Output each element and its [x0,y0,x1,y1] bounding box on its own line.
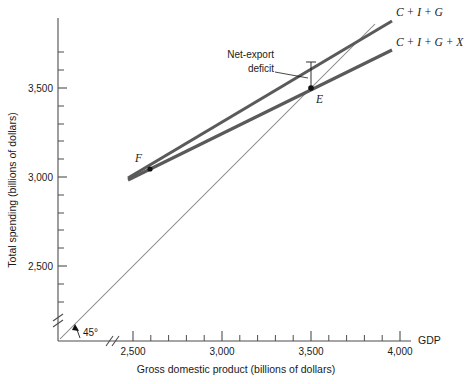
x-tick-label-3500: 3,500 [298,346,323,357]
x-tick-label-2500: 2,500 [120,346,145,357]
y-tick-label-3000: 3,000 [28,172,53,183]
curve-label-c-i-g-x: C + I + G + X [396,36,464,48]
x-tick-label-4000: 4,000 [387,346,412,357]
chart-svg: 3,500 3,000 2,500 2,500 3,000 3,500 4,00… [0,0,472,384]
point-label-e: E [315,93,323,105]
y-axis-title: Total spending (billions of dollars) [6,112,18,267]
y-tick-label-3500: 3,500 [28,83,53,94]
annotation-net-export-deficit-line1: Net-export [227,49,274,60]
x-axis-title: Gross domestic product (billions of doll… [137,363,335,375]
x-tick-label-3000: 3,000 [209,346,234,357]
y-tick-label-2500: 2,500 [28,261,53,272]
point-marker-e [308,85,314,91]
point-marker-f [147,166,152,171]
point-label-f: F [134,152,143,164]
economics-chart: 3,500 3,000 2,500 2,500 3,000 3,500 4,00… [0,0,472,384]
curve-label-c-i-g: C + I + G [396,6,444,18]
x-axis-end-label-gdp: GDP [418,334,441,346]
annotation-net-export-deficit-line2: deficit [248,63,274,74]
angle-label-45: 45° [83,327,98,338]
